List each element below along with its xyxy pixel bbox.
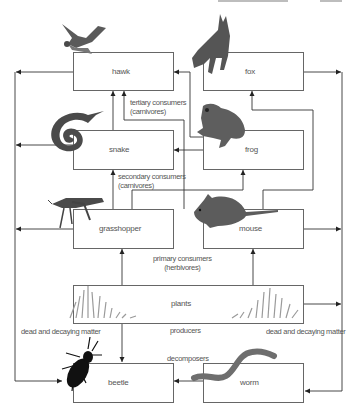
snake-icon	[46, 107, 106, 157]
grasshopper-label: grasshopper	[99, 224, 141, 233]
fox-label: fox	[245, 67, 255, 76]
secondary-line2: (carnivores)	[118, 181, 186, 190]
frog-icon	[195, 102, 247, 150]
dead-decaying-left-caption: dead and decaying matter	[21, 327, 101, 336]
grass-left-icon	[66, 282, 142, 320]
secondary-line1: secondary consumers	[118, 172, 186, 181]
mouse-label: mouse	[239, 224, 262, 233]
plants-label: plants	[171, 299, 191, 308]
producers-caption: producers	[170, 326, 201, 335]
primary-line1: primary consumers	[153, 254, 212, 263]
fox-icon	[190, 12, 242, 78]
hawk-label: hawk	[112, 67, 130, 76]
tertiary-line2: (carnivores)	[130, 107, 186, 116]
snake-label: snake	[109, 145, 129, 154]
frog-label: frog	[245, 145, 258, 154]
decomposers-caption: decomposers	[167, 354, 209, 363]
grass-right-icon	[228, 282, 304, 320]
dead-decaying-right-caption: dead and decaying matter	[266, 327, 346, 336]
secondary-consumers-caption: secondary consumers (carnivores)	[118, 172, 186, 190]
tertiary-consumers-caption: tertiary consumers (carnivores)	[130, 98, 186, 116]
mouse-icon	[190, 192, 282, 232]
primary-line2: (herbivores)	[153, 263, 212, 272]
worm-label: worm	[240, 378, 259, 387]
hawk-icon	[58, 20, 110, 66]
primary-consumers-caption: primary consumers (herbivores)	[153, 254, 212, 272]
tertiary-line1: tertiary consumers	[130, 98, 186, 107]
beetle-label: beetle	[108, 378, 129, 387]
beetle-icon	[58, 335, 110, 397]
